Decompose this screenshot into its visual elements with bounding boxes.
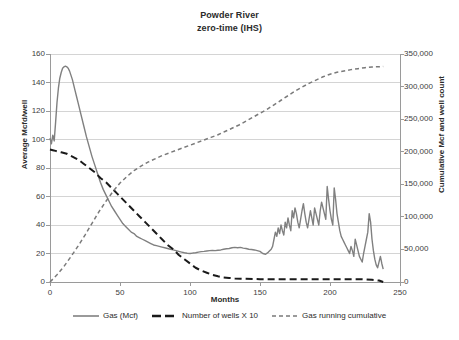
legend-swatch-icon bbox=[152, 312, 178, 320]
chart-legend: Gas (Mcf)Number of wells X 10Gas running… bbox=[0, 311, 459, 320]
legend-swatch-icon bbox=[272, 312, 298, 320]
plot-area bbox=[0, 0, 459, 340]
series-line-gas-running-cumulative bbox=[50, 66, 383, 282]
legend-label: Gas running cumulative bbox=[302, 311, 386, 320]
legend-item[interactable]: Number of wells X 10 bbox=[152, 311, 258, 320]
chart-container: Powder River zero-time (IHS) Average Mcf… bbox=[0, 0, 459, 340]
legend-item[interactable]: Gas running cumulative bbox=[272, 311, 386, 320]
legend-label: Number of wells X 10 bbox=[182, 311, 258, 320]
legend-label: Gas (Mcf) bbox=[103, 311, 138, 320]
legend-swatch-icon bbox=[73, 312, 99, 320]
legend-item[interactable]: Gas (Mcf) bbox=[73, 311, 138, 320]
